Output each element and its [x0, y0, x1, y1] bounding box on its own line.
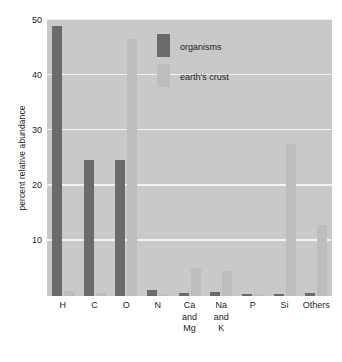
x-tick-label: Ca and Mg: [174, 300, 206, 335]
legend-item: earth's crust: [157, 64, 282, 94]
y-tick-label: 30: [22, 126, 42, 135]
legend-swatch: [157, 64, 170, 87]
x-tick-label: Na and K: [205, 300, 237, 335]
y-tick-label: 20: [22, 181, 42, 190]
y-tick-label: 50: [22, 16, 42, 25]
bar: [254, 294, 264, 296]
legend-label: earth's crust: [180, 72, 229, 82]
x-tick-label: C: [79, 300, 111, 312]
bar: [317, 225, 327, 296]
bar: [147, 290, 157, 296]
bar-group: [115, 20, 137, 296]
bar: [286, 144, 296, 296]
bar: [115, 160, 125, 296]
x-tick-label: H: [47, 300, 79, 312]
bar-chart: percent relative abundance 1020304050 or…: [0, 0, 342, 362]
bar: [210, 292, 220, 296]
bar-group: [305, 20, 327, 296]
bar: [191, 268, 201, 296]
legend-swatch: [157, 34, 170, 57]
x-tick-label: Others: [300, 300, 332, 312]
bar: [127, 39, 137, 296]
bar: [179, 293, 189, 296]
legend-item: organisms: [157, 34, 282, 64]
x-tick-label: N: [142, 300, 174, 312]
bar-group: [84, 20, 106, 296]
bar: [159, 294, 169, 296]
bar: [96, 293, 106, 296]
y-tick-label: 10: [22, 236, 42, 245]
bar: [84, 160, 94, 296]
bar: [64, 291, 74, 296]
y-tick-label: 40: [22, 71, 42, 80]
bar: [52, 26, 62, 296]
x-tick-label: P: [237, 300, 269, 312]
bar-group: [52, 20, 74, 296]
legend-label: organisms: [180, 42, 222, 52]
x-tick-label: Si: [269, 300, 301, 312]
y-axis-tick-labels: 1020304050: [22, 0, 42, 362]
bar: [274, 294, 284, 296]
chart-legend: organismsearth's crust: [157, 34, 282, 94]
bar: [222, 271, 232, 296]
x-tick-label: O: [110, 300, 142, 312]
bar: [305, 293, 315, 296]
bar: [242, 294, 252, 296]
x-axis-tick-labels: HCONCa and MgNa and KPSiOthers: [47, 300, 332, 358]
